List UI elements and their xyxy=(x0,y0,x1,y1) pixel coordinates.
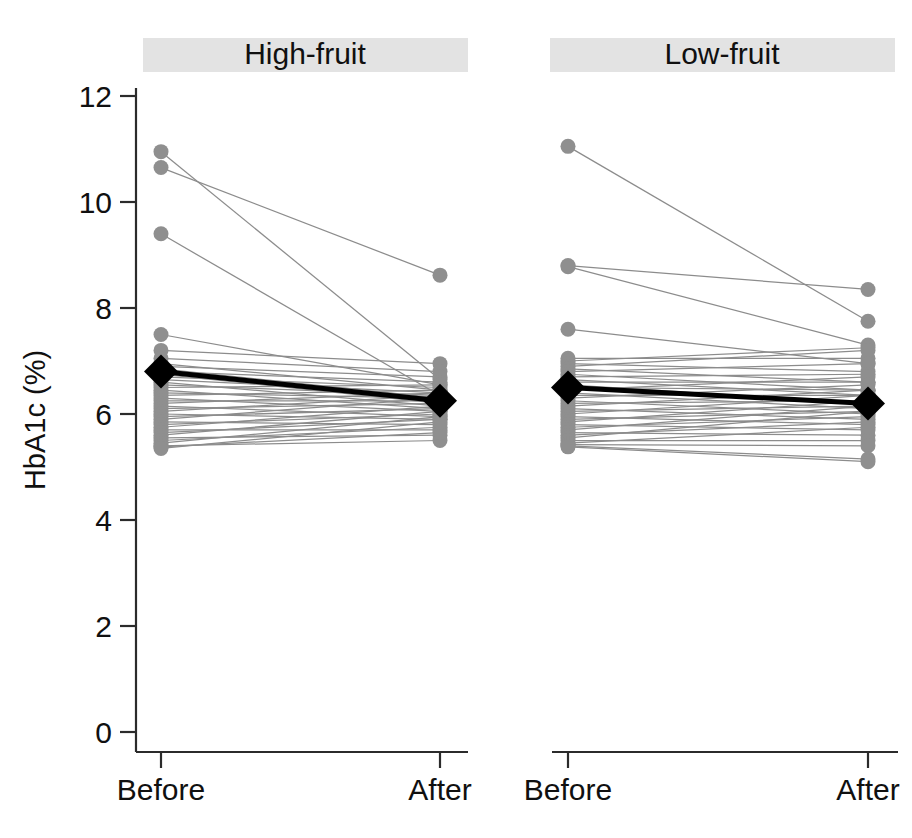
subject-line xyxy=(161,168,440,276)
y-tick-label: 12 xyxy=(79,80,112,113)
data-point-before xyxy=(154,144,169,159)
data-point-after xyxy=(861,314,876,329)
y-axis: 024681012 HbA1c (%) xyxy=(19,80,136,752)
subject-line xyxy=(568,267,868,345)
y-tick-label: 6 xyxy=(95,398,112,431)
data-point-after xyxy=(861,454,876,469)
data-point-before xyxy=(154,441,169,456)
data-point-before xyxy=(561,322,576,337)
data-point-before xyxy=(154,327,169,342)
figure-root: 024681012 HbA1c (%) High-fruit Before Af… xyxy=(0,0,912,838)
data-point-before xyxy=(561,139,576,154)
data-point-after xyxy=(861,282,876,297)
series-lines-high-fruit xyxy=(161,152,440,449)
subject-line xyxy=(568,446,868,459)
panel-title-high-fruit: High-fruit xyxy=(244,37,366,70)
data-point-before xyxy=(561,439,576,454)
subject-line xyxy=(568,447,868,462)
mean-diamond-before xyxy=(551,371,585,405)
data-point-before xyxy=(561,259,576,274)
x-label-after-high-fruit: After xyxy=(408,773,471,806)
y-tick-label: 8 xyxy=(95,292,112,325)
subject-line xyxy=(161,350,440,363)
y-tick-group: 024681012 xyxy=(79,80,136,749)
y-tick-label: 2 xyxy=(95,610,112,643)
subject-line xyxy=(161,427,440,440)
mean-diamond-after xyxy=(851,386,885,420)
data-point-after xyxy=(433,268,448,283)
data-point-after xyxy=(861,420,876,435)
subject-line xyxy=(568,266,868,290)
data-point-after xyxy=(861,438,876,453)
subject-line xyxy=(568,146,868,321)
x-label-before-high-fruit: Before xyxy=(117,773,205,806)
y-tick-label: 4 xyxy=(95,504,112,537)
subject-line xyxy=(568,445,868,446)
subject-line xyxy=(161,152,440,380)
x-label-after-low-fruit: After xyxy=(836,773,899,806)
x-label-before-low-fruit: Before xyxy=(524,773,612,806)
y-tick-label: 0 xyxy=(95,716,112,749)
y-tick-label: 10 xyxy=(79,186,112,219)
data-point-before xyxy=(154,226,169,241)
data-point-after xyxy=(861,343,876,358)
subject-line xyxy=(161,358,440,371)
subject-line xyxy=(568,374,868,377)
panel-low-fruit: Low-fruit Before After xyxy=(524,37,900,806)
data-point-before xyxy=(154,160,169,175)
y-axis-title: HbA1c (%) xyxy=(19,350,51,490)
panel-high-fruit: High-fruit Before After xyxy=(117,37,472,806)
series-lines-low-fruit xyxy=(568,146,868,461)
paired-hba1c-chart: 024681012 HbA1c (%) High-fruit Before Af… xyxy=(0,0,912,838)
panel-title-low-fruit: Low-fruit xyxy=(664,37,780,70)
